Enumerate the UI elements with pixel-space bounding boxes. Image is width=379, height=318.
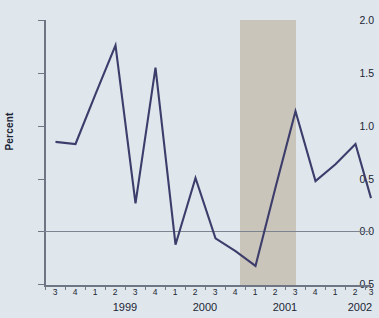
series-line-path [56, 45, 372, 266]
x-quarter-label-2000q2: 2 [190, 288, 200, 297]
x-tick-mark-14 [325, 286, 326, 290]
x-quarter-label-2001q3: 3 [290, 288, 300, 297]
x-quarter-label-2002q3: 3 [366, 288, 376, 297]
x-quarter-label-1999q1: 1 [90, 288, 100, 297]
x-tick-mark-8 [205, 286, 206, 290]
x-quarter-label-1998q3: 3 [50, 288, 60, 297]
x-tick-mark-12 [285, 286, 286, 290]
x-year-label-2000: 2000 [185, 301, 225, 313]
x-year-label-2002: 2002 [340, 301, 379, 313]
x-year-label-1999: 1999 [105, 301, 145, 313]
x-quarter-label-1999q2: 2 [110, 288, 120, 297]
x-quarter-label-1999q4: 4 [150, 288, 160, 297]
x-tick-mark-13 [305, 286, 306, 290]
x-quarter-label-2000q3: 3 [210, 288, 220, 297]
x-tick-mark-0 [45, 286, 46, 290]
x-quarter-label-2002q2: 2 [350, 288, 360, 297]
x-quarter-label-1999q3: 3 [130, 288, 140, 297]
x-quarter-label-2002q1: 1 [330, 288, 340, 297]
x-quarter-label-2001q4: 4 [310, 288, 320, 297]
x-year-label-2001: 2001 [265, 301, 305, 313]
x-tick-mark-1 [65, 286, 66, 290]
x-quarter-label-2000q4: 4 [230, 288, 240, 297]
x-quarter-label-2001q2: 2 [270, 288, 280, 297]
x-tick-mark-15 [345, 286, 346, 290]
x-quarter-label-2000q1: 1 [170, 288, 180, 297]
x-quarter-label-2001q1: 1 [250, 288, 260, 297]
x-tick-mark-5 [145, 286, 146, 290]
x-tick-mark-7 [185, 286, 186, 290]
x-quarter-label-1998q4: 4 [70, 288, 80, 297]
x-tick-mark-6 [165, 286, 166, 290]
x-tick-mark-4 [125, 286, 126, 290]
x-tick-mark-2 [85, 286, 86, 290]
x-tick-mark-9 [225, 286, 226, 290]
x-tick-mark-3 [105, 286, 106, 290]
x-tick-mark-10 [245, 286, 246, 290]
x-tick-mark-11 [265, 286, 266, 290]
